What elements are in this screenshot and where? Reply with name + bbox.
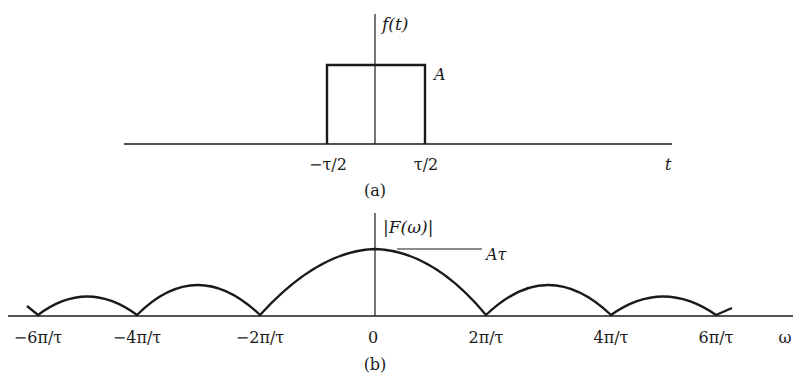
tick-label-neg-tau-half: −τ/2 [309,155,347,174]
peak-label: Aτ [484,245,508,264]
rect-pulse [327,65,425,144]
spectrum-curve [27,249,732,315]
tick-label-pos-4pi: 4π/τ [594,328,629,347]
tick-label-pos-2pi: 2π/τ [469,328,504,347]
figure: f(t) A −τ/2 τ/2 t (a) |F(ω)| Aτ −6π/τ −4… [0,0,806,388]
amplitude-label: A [432,65,446,84]
tick-label-pos-tau-half: τ/2 [414,155,438,174]
t-axis-label: t [665,155,672,174]
caption-b: (b) [364,355,387,374]
panel-a: f(t) A −τ/2 τ/2 t (a) [124,14,672,200]
tick-label-neg-4pi: −4π/τ [113,328,161,347]
tick-label-pos-6pi: 6π/τ [699,328,734,347]
tick-label-zero: 0 [368,328,378,347]
F-of-omega-label: |F(ω)| [383,217,433,237]
omega-axis-label: ω [778,328,791,347]
f-of-t-label: f(t) [380,14,408,34]
panel-b: |F(ω)| Aτ −6π/τ −4π/τ −2π/τ 0 2π/τ 4π/τ … [8,213,793,374]
caption-a: (a) [364,181,386,200]
tick-label-neg-6pi: −6π/τ [14,328,62,347]
tick-label-neg-2pi: −2π/τ [236,328,284,347]
